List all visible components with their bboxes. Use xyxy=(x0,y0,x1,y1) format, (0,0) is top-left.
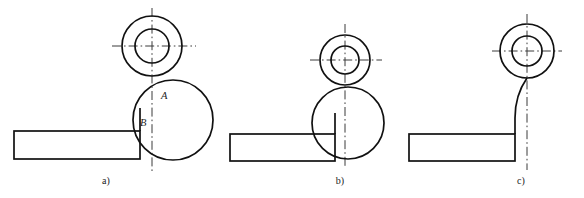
variant-c-caption: c) xyxy=(517,175,525,187)
variant-c-group: c) xyxy=(409,14,562,187)
engineering-drawing-canvas: A B a) b) c) xyxy=(0,0,584,198)
variant-a-group: A B a) xyxy=(14,8,213,187)
figure-root: A B a) b) c) xyxy=(0,0,584,198)
variant-a-plate-rect xyxy=(14,131,140,159)
variant-b-roller-circle xyxy=(312,87,384,159)
variant-b-plate-rect xyxy=(230,134,335,161)
variant-c-plate-rect xyxy=(409,134,515,161)
variant-b-caption: b) xyxy=(336,175,344,187)
variant-c-fillet-curve xyxy=(515,78,527,134)
variant-a-label-B: B xyxy=(140,117,147,128)
variant-a-caption: a) xyxy=(102,175,110,187)
variant-b-group: b) xyxy=(230,24,384,187)
variant-a-label-A: A xyxy=(160,90,168,101)
